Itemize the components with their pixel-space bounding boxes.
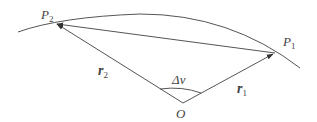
label-p1: P1: [282, 34, 295, 51]
label-p2: P2: [40, 7, 53, 24]
label-r2: r2: [98, 63, 108, 80]
label-p2-sub: 2: [49, 14, 54, 24]
label-origin: O: [176, 106, 186, 121]
label-p2-main: P: [40, 7, 49, 22]
label-r2-sub: 2: [103, 70, 108, 80]
orbit-transfer-diagram: P2 P1 O r2 r1 Δν: [0, 0, 317, 122]
orbit-arc: [18, 14, 300, 68]
label-p1-sub: 1: [291, 41, 296, 51]
label-r1: r1: [237, 81, 247, 98]
label-p1-main: P: [282, 34, 291, 49]
r2-vector: [57, 24, 183, 103]
r1-vector: [183, 54, 273, 103]
label-r1-sub: 1: [242, 88, 247, 98]
chord-vector: [57, 24, 275, 53]
label-delta-nu: Δν: [171, 72, 186, 87]
